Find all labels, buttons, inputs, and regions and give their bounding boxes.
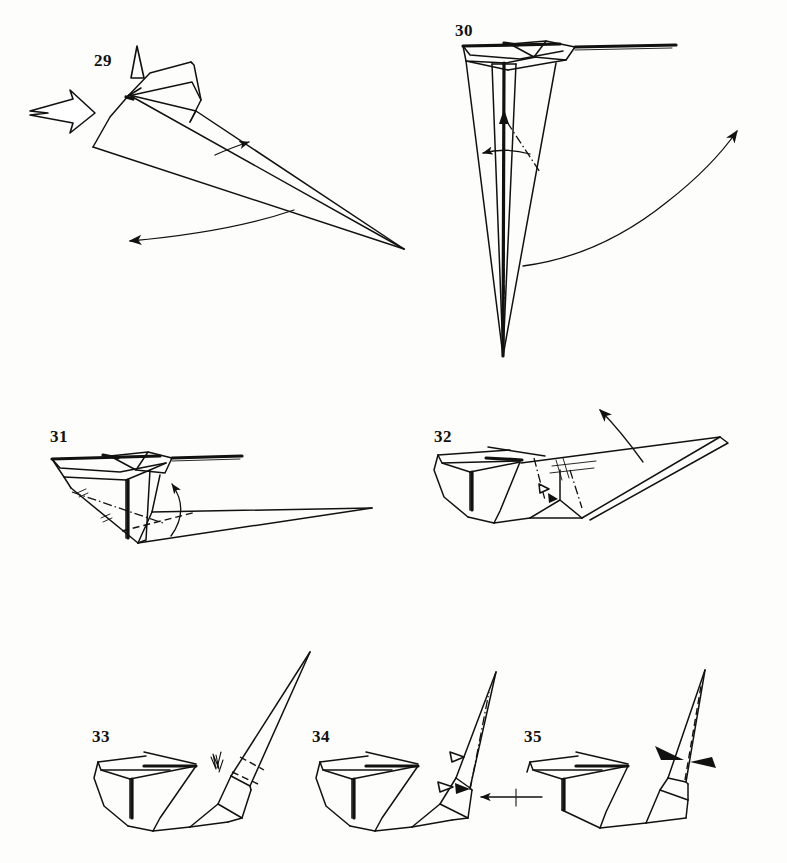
curved-up-arrow [171, 484, 181, 536]
step-number-32: 32 [434, 428, 452, 445]
step-32-figure [434, 410, 728, 523]
step-30-figure [463, 41, 737, 356]
push-arrow-hollow [30, 90, 95, 133]
step-33-figure [94, 652, 310, 831]
pinch-arrow-right [690, 757, 716, 768]
step-29-figure [30, 46, 404, 249]
pinch-arrow-left [655, 746, 684, 760]
fold-arrow-left-curved [130, 210, 294, 241]
step-number-35: 35 [524, 728, 542, 745]
curved-up-right-arrow [600, 410, 643, 462]
step-number-34: 34 [312, 728, 330, 745]
diagram-sheet: 29 30 31 32 33 34 35 [0, 0, 787, 863]
step-number-31: 31 [50, 428, 68, 445]
large-curved-up-right-arrow [523, 131, 737, 266]
small-hollow-arrow-lower [438, 782, 453, 792]
step-35-figure [527, 670, 716, 828]
step-number-30: 30 [455, 22, 473, 39]
small-hollow-up-arrow [131, 46, 144, 78]
step-34-figure [316, 672, 542, 831]
step-31-figure [52, 452, 372, 543]
step-number-29: 29 [94, 52, 112, 69]
step-number-33: 33 [92, 728, 110, 745]
small-curved-left-arrow [483, 150, 530, 154]
origami-line-art [0, 0, 787, 863]
